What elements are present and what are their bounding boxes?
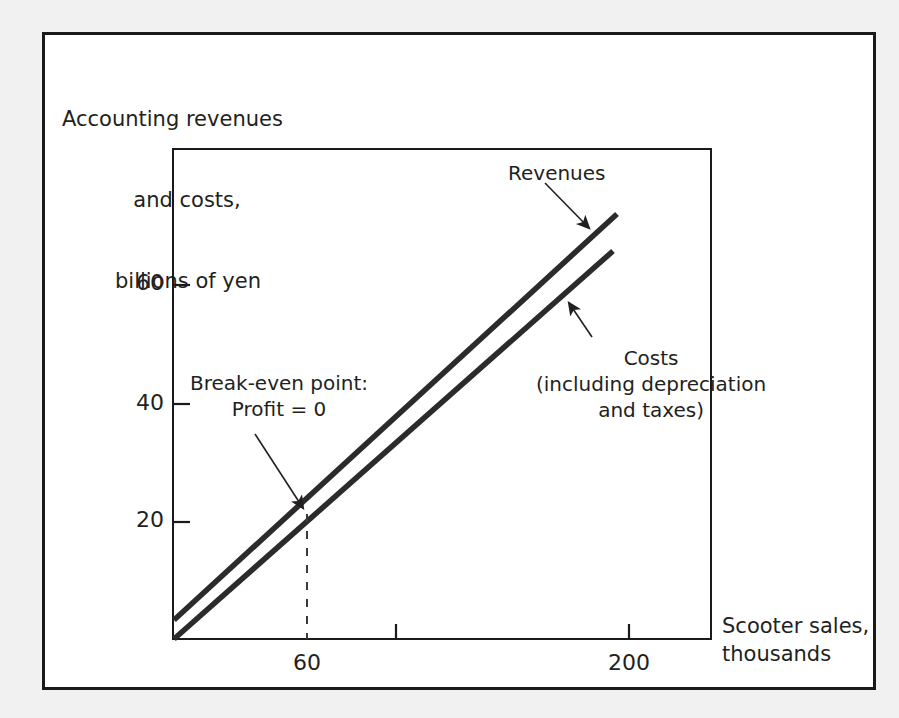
x-axis-caption-line1: Scooter sales,	[722, 612, 869, 640]
y-tick-label-40: 40	[104, 390, 164, 415]
x-axis-caption-line2: thousands	[722, 640, 869, 668]
figure-root: Accounting revenues and costs, billions …	[0, 0, 899, 718]
y-tick-label-60: 60	[104, 270, 164, 295]
x-tick-label-200: 200	[594, 650, 664, 675]
x-axis-caption: Scooter sales, thousands	[722, 612, 869, 668]
y-axis-caption-line1: Accounting revenues	[62, 106, 358, 133]
annotation-costs-sub2: and taxes)	[536, 397, 766, 423]
annotation-breakeven-line2: Profit = 0	[190, 396, 368, 422]
annotation-revenues-label: Revenues	[508, 161, 606, 185]
annotation-costs-sub1: (including depreciation	[536, 371, 766, 397]
annotation-costs: Costs (including depreciation and taxes)	[536, 345, 766, 423]
x-tick-label-60: 60	[272, 650, 342, 675]
annotation-breakeven-line1: Break-even point:	[190, 370, 368, 396]
y-tick-label-20: 20	[104, 507, 164, 532]
annotation-revenues: Revenues	[508, 160, 606, 186]
annotation-costs-label: Costs	[536, 345, 766, 371]
annotation-breakeven: Break-even point: Profit = 0	[190, 370, 368, 422]
